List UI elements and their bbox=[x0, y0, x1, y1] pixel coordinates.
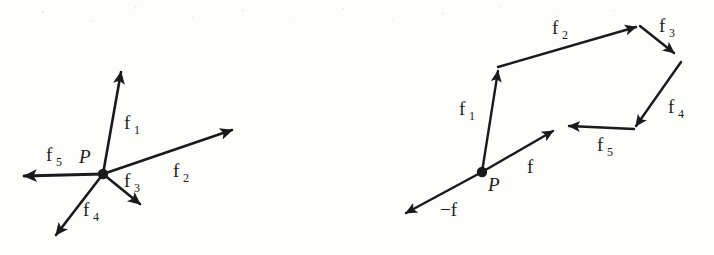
vector-f1-label-right: f bbox=[459, 98, 466, 119]
vector-f4-label-left: f bbox=[83, 199, 90, 220]
vector-f3-subscript-right: 3 bbox=[669, 26, 675, 40]
vector-f-resultant-arrow bbox=[482, 131, 553, 172]
vector-f5-arrow-right bbox=[569, 126, 634, 129]
vector-f3-label-left: f bbox=[124, 170, 131, 191]
figure-root: P f 1 f 2 f 3 f 4 f 5 bbox=[0, 0, 714, 255]
vector-f1-subscript-right: 1 bbox=[469, 109, 475, 123]
point-p-label-right: P bbox=[487, 174, 500, 195]
vector-f5-label-left: f bbox=[46, 144, 53, 165]
vector-f5-subscript-right: 5 bbox=[607, 145, 613, 159]
vector-f3-subscript-left: 3 bbox=[134, 181, 140, 195]
vector-f2-arrow bbox=[103, 130, 232, 174]
vector-f4-label-right: f bbox=[668, 96, 675, 117]
force-diagram-svg: P f 1 f 2 f 3 f 4 f 5 bbox=[0, 0, 714, 255]
point-p-dot-left bbox=[98, 169, 108, 179]
vector-f4-subscript-right: 4 bbox=[678, 107, 684, 121]
vector-f1-label-left: f bbox=[124, 112, 131, 133]
vector-f5-arrow bbox=[24, 174, 103, 176]
vector-f-label-right: f bbox=[527, 156, 534, 177]
point-p-label-left: P bbox=[78, 146, 91, 167]
vector-neg-f-label-right: −f bbox=[440, 199, 458, 220]
vector-f4-subscript-left: 4 bbox=[93, 210, 99, 224]
vector-f1-arrow-right bbox=[482, 71, 498, 172]
vector-f5-subscript-left: 5 bbox=[56, 155, 62, 169]
panel-space-diagram: P f 1 f 2 f 3 f 4 f 5 bbox=[24, 72, 232, 235]
vector-f2-subscript-left: 2 bbox=[183, 171, 189, 185]
vector-f2-subscript-right: 2 bbox=[562, 28, 568, 42]
vector-f2-label-left: f bbox=[173, 160, 180, 181]
vector-f1-subscript-left: 1 bbox=[134, 123, 140, 137]
vector-f4-arrow bbox=[56, 174, 103, 235]
point-p-dot-right bbox=[477, 167, 487, 177]
vector-f3-label-right: f bbox=[659, 15, 666, 36]
vector-f1-arrow bbox=[103, 72, 121, 174]
vector-f2-label-right: f bbox=[552, 17, 559, 38]
vector-f5-label-right: f bbox=[597, 134, 604, 155]
panel-force-polygon: P f 1 f 2 f 3 f 4 f 5 f −f bbox=[406, 15, 684, 220]
